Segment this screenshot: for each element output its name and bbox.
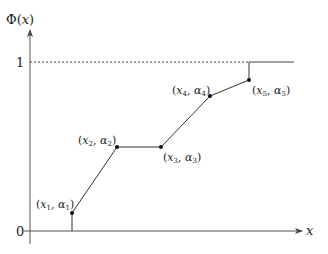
point-1-label: (x1, α1)	[36, 198, 74, 212]
y-tick-1: 1	[16, 55, 24, 70]
step-function-diagram: Φ(x) x 1 0 (x1, α1) (x2, α2) (x3, α3) (x…	[0, 0, 328, 254]
point-1	[70, 211, 74, 215]
point-5-label: (x5, α5)	[252, 84, 290, 98]
y-tick-0: 0	[16, 224, 24, 239]
point-5	[247, 78, 251, 82]
point-4-label: (x4, α4)	[172, 84, 210, 98]
y-axis-label: Φ(x)	[6, 12, 34, 27]
point-3	[159, 145, 163, 149]
x-axis-label: x	[306, 223, 314, 238]
point-3-label: (x3, α3)	[163, 151, 201, 165]
point-2-label: (x2, α2)	[78, 134, 116, 148]
